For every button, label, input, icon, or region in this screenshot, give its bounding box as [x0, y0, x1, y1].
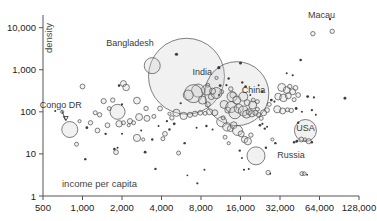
- bubble: [249, 133, 253, 137]
- y-tick-label: 100: [20, 106, 36, 117]
- bubble: [229, 87, 233, 91]
- bubble: [95, 128, 100, 133]
- bubble: [117, 147, 119, 149]
- annotation-macau: Macau: [308, 10, 335, 20]
- bubble: [104, 133, 106, 135]
- x-tick-label: 4,000: [150, 202, 174, 213]
- bubble: [186, 174, 188, 176]
- bubble: [161, 137, 165, 141]
- x-tick-label: 32,000: [265, 202, 294, 213]
- bubble: [344, 97, 347, 100]
- y-tick-label: 1: [31, 191, 36, 202]
- bubble: [280, 108, 286, 114]
- bubble: [168, 112, 171, 115]
- bubble: [158, 125, 160, 127]
- bubble: [101, 98, 106, 103]
- bubble: [144, 151, 147, 154]
- bubble: [134, 97, 141, 104]
- bubble: [151, 138, 153, 140]
- bubble: [311, 31, 315, 35]
- bubble: [183, 90, 193, 100]
- bubble: [223, 135, 227, 139]
- bubble: [93, 111, 97, 115]
- bubble: [265, 108, 270, 113]
- bubble: [198, 110, 203, 115]
- leader-arrow: [63, 117, 68, 121]
- bubble: [84, 158, 86, 160]
- bubble: [227, 77, 229, 79]
- bubble-bangladesh: [144, 58, 160, 74]
- bubble: [265, 147, 267, 149]
- bubble: [168, 128, 170, 130]
- bubble: [196, 182, 198, 184]
- bubble: [212, 110, 218, 116]
- bubble: [142, 138, 145, 141]
- x-tick-label: 128,000: [342, 202, 376, 213]
- bubble: [293, 86, 298, 91]
- bubble: [121, 121, 125, 125]
- bubble: [285, 93, 291, 99]
- bubble: [259, 116, 263, 120]
- bubble: [248, 168, 250, 170]
- bubble: [311, 109, 313, 111]
- bubble: [74, 142, 78, 146]
- bubble: [118, 84, 121, 87]
- y-tick-label: 1,000: [12, 64, 36, 75]
- bubble: [243, 169, 245, 171]
- bubble: [221, 116, 225, 120]
- bubble-russia: [247, 147, 265, 165]
- bubble: [144, 115, 150, 121]
- bubble: [173, 109, 180, 116]
- bubble: [244, 138, 251, 145]
- x-tick-label: 2,000: [110, 202, 134, 213]
- bubble: [170, 116, 174, 120]
- bubble: [78, 120, 81, 123]
- bubble: [261, 123, 263, 125]
- bubble: [205, 102, 210, 107]
- y-tick-group: 1101001,00010,000: [7, 22, 43, 201]
- marker-dot: [217, 66, 220, 69]
- bubble: [292, 74, 294, 76]
- bubble: [306, 139, 311, 144]
- x-tick-label: 1,000: [71, 202, 95, 213]
- annotation-bangladesh: Bangladesh: [106, 38, 154, 48]
- bubble: [288, 84, 292, 88]
- scatter-chart: 1101001,00010,000 5001,0002,0004,0008,00…: [0, 0, 377, 221]
- marker-dot: [175, 53, 178, 56]
- bubble: [88, 121, 92, 125]
- bubble: [301, 111, 303, 113]
- bubble: [133, 134, 140, 141]
- bubble: [296, 93, 301, 98]
- bubble: [144, 106, 148, 110]
- x-tick-label: 8,000: [189, 202, 213, 213]
- bubble: [210, 88, 216, 94]
- bubble: [196, 127, 198, 129]
- bubble: [205, 125, 207, 127]
- bubble: [97, 113, 101, 117]
- plot-svg: 1101001,00010,000 5001,0002,0004,0008,00…: [0, 0, 377, 221]
- bubble: [152, 114, 156, 118]
- bubble: [212, 129, 214, 131]
- bubble: [239, 149, 241, 151]
- y-axis-title: density: [43, 23, 54, 53]
- bubble: [306, 95, 309, 98]
- annotation-russia: Russia: [277, 150, 305, 160]
- bubble: [311, 141, 313, 143]
- bubble: [330, 29, 334, 33]
- y-tick-label: 10: [25, 148, 36, 159]
- x-tick-label: 64,000: [305, 202, 334, 213]
- bubble: [269, 173, 271, 175]
- bubble: [54, 110, 56, 112]
- bubble: [238, 131, 244, 137]
- bubble: [274, 142, 276, 144]
- annotation-congo-dr: Congo DR: [40, 100, 83, 110]
- bubble: [266, 126, 268, 128]
- bubble: [121, 103, 123, 105]
- bubble: [183, 142, 185, 144]
- bubble: [273, 101, 275, 103]
- annotation-usa: USA: [296, 123, 315, 133]
- bubble: [270, 99, 273, 102]
- bubble: [239, 61, 242, 64]
- bubble: [111, 98, 115, 102]
- annotation-india: India: [192, 67, 212, 77]
